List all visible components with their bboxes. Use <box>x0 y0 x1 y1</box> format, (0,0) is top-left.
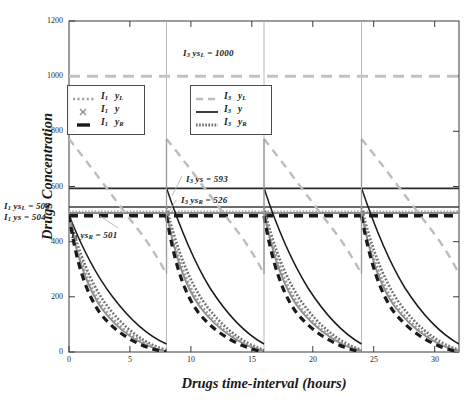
legend1-label-y: I1y <box>101 104 119 114</box>
x-tick-label-5: 5 <box>117 355 143 364</box>
legend2-y-sub: 3 <box>228 108 231 115</box>
dense-dotted-line-icon <box>195 117 219 129</box>
annotation-i3-ysr: I3 ysR = 526 <box>181 195 227 205</box>
annot-i1-ysr-post: = 501 <box>93 230 117 240</box>
legend1-row-yl: I1yL <box>72 90 138 103</box>
annot-i3-ys-post: = 593 <box>204 174 228 184</box>
legend1-label-yr: I1yR <box>101 117 124 127</box>
annotation-i1-ysr: I1 ysR = 501 <box>71 230 117 240</box>
annot-i3-ysl-mid: ys <box>190 48 200 58</box>
legend2-label-yl: I3yL <box>224 91 246 101</box>
y-tick-label-1200: 1200 <box>33 16 63 25</box>
legend1-label-yl: I1yL <box>101 91 123 101</box>
dotted-line-icon <box>72 91 96 103</box>
legend1-yl-varsub: L <box>119 95 123 102</box>
legend2-label-y: I3y <box>224 104 242 114</box>
legend2-y-var: y <box>238 104 242 114</box>
legend1-row-y: I1y <box>72 103 138 116</box>
annot-i3-ysl-post: = 1000 <box>205 48 234 58</box>
solid-line-icon <box>195 104 219 116</box>
x-tick-label-25: 25 <box>361 355 387 364</box>
legend2-row-yl: I3yL <box>195 90 265 103</box>
dashed-line-icon <box>195 91 219 103</box>
legend1-row-yr: I1yR <box>72 116 138 129</box>
legend2-label-yr: I3yR <box>224 117 247 127</box>
y-tick-label-800: 800 <box>33 126 63 135</box>
legend1-yr-sub: 1 <box>105 121 108 128</box>
x-tick-label-0: 0 <box>56 355 82 364</box>
legend1-y-var: y <box>115 104 119 114</box>
x-marker-icon <box>72 104 96 116</box>
legend1-y-sub: 1 <box>105 108 108 115</box>
x-tick-label-10: 10 <box>178 355 204 364</box>
y-tick-label-600: 600 <box>33 182 63 191</box>
x-axis-title: Drugs time-interval (hours) <box>69 375 459 392</box>
annot-i3-ysr-mid: ys <box>188 195 198 205</box>
plot-canvas <box>0 0 474 402</box>
annotation-i3-ysl: I3 ysL = 1000 <box>183 48 234 58</box>
legend-interval-3: I3yL I3y I3yR <box>190 85 272 135</box>
legend2-row-yr: I3yR <box>195 116 265 129</box>
legend2-yl-varsub: L <box>242 95 246 102</box>
legend-interval-1: I1yL I1y I1yR <box>67 85 145 135</box>
drug-concentration-chart-figure: Drugs Concentration Drugs time-interval … <box>0 0 474 402</box>
annotation-i1-ys: I1 ys = 504 <box>4 212 46 222</box>
legend2-yl-sub: 3 <box>228 95 231 102</box>
annotation-i3-ys: I3 ys = 593 <box>186 174 228 184</box>
x-tick-label-30: 30 <box>422 355 448 364</box>
thick-dashed-line-icon <box>72 117 96 129</box>
y-tick-label-400: 400 <box>33 237 63 246</box>
annot-i1-ys-post: = 504 <box>22 212 46 222</box>
annot-i1-ysr-mid: ys <box>78 230 88 240</box>
x-tick-label-15: 15 <box>239 355 265 364</box>
legend1-yr-varsub: R <box>119 121 123 128</box>
legend1-yl-sub: 1 <box>105 95 108 102</box>
x-tick-label-20: 20 <box>300 355 326 364</box>
annot-i1-ysl-mid: ys <box>11 201 21 211</box>
legend2-yr-varsub: R <box>242 121 246 128</box>
legend2-yr-sub: 3 <box>228 121 231 128</box>
y-tick-label-1000: 1000 <box>33 71 63 80</box>
annot-i1-ysl-post: = 508 <box>26 201 50 211</box>
legend2-row-y: I3y <box>195 103 265 116</box>
y-tick-label-200: 200 <box>33 292 63 301</box>
annot-i3-ys-mid: ys <box>193 174 203 184</box>
annot-i1-ys-mid: ys <box>11 212 21 222</box>
annot-i3-ysr-post: = 526 <box>203 195 227 205</box>
annotation-i1-ysl: I1 ysL = 508 <box>4 201 50 211</box>
